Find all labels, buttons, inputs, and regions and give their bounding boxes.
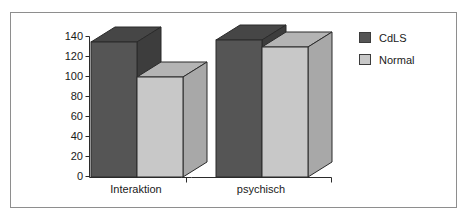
legend-swatch-cdls [359,32,371,43]
x-axis-category-psychisch: psychisch [214,183,308,195]
bar-front-face [216,40,262,177]
bar-side-face [183,62,207,177]
bar-side-face [308,32,332,177]
bar-normal-psychisch [262,32,332,177]
chart-frame: 140 120 100 80 60 40 20 0 [10,12,457,208]
bar-normal-interaktion [137,62,207,177]
legend-label-cdls: CdLS [379,32,407,44]
chart-figure: 140 120 100 80 60 40 20 0 [0,0,473,223]
legend-swatch-normal [359,54,371,65]
bar-front-face [137,77,183,177]
bar-front-face [262,47,308,177]
x-axis [90,178,332,183]
bar-front-face [91,42,137,177]
legend-label-normal: Normal [379,54,414,66]
y-axis [86,37,90,178]
x-axis-category-interaktion: Interaktion [89,183,183,195]
